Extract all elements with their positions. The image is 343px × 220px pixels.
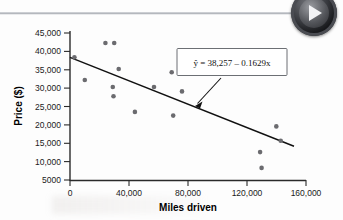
x-tick-label: 120,000	[232, 188, 263, 198]
regression-equation-label: ŷ = 38,257 – 0.1629x	[193, 58, 271, 68]
data-point	[258, 150, 263, 155]
scatter-plot-figure: 45,000 40,000 35,000 30,000 25,000 20,00…	[0, 0, 343, 220]
y-axis-title: Price ($)	[13, 86, 24, 125]
y-tick-label: 25,000	[35, 102, 61, 112]
data-point	[171, 113, 176, 118]
x-tick-label: 0	[68, 188, 73, 198]
data-point	[259, 166, 264, 171]
y-tick-label: 5000	[42, 175, 61, 185]
y-tick-label: 15,000	[35, 138, 61, 148]
data-point	[169, 70, 174, 75]
data-point	[111, 94, 116, 99]
x-axis-title: Miles driven	[159, 202, 217, 213]
data-point	[103, 41, 108, 46]
data-point	[111, 85, 116, 90]
data-point	[274, 124, 279, 129]
x-tick-label: 40,000	[116, 188, 142, 198]
chart-canvas: 45,000 40,000 35,000 30,000 25,000 20,00…	[0, 0, 343, 220]
data-point	[83, 78, 88, 83]
data-point	[278, 138, 283, 143]
y-tick-label: 30,000	[35, 83, 61, 93]
data-point	[133, 110, 138, 115]
annotation-arrow	[195, 78, 221, 109]
y-axis-tick-labels: 45,000 40,000 35,000 30,000 25,000 20,00…	[35, 28, 61, 185]
x-axis-tick-labels: 0 40,000 80,000 120,000 160,000	[68, 188, 322, 198]
y-tick-label: 10,000	[35, 157, 61, 167]
data-point	[112, 41, 117, 46]
data-point	[72, 55, 77, 60]
data-point	[116, 67, 121, 72]
y-axis-ticks	[64, 33, 70, 180]
y-tick-label: 20,000	[35, 120, 61, 130]
data-point	[152, 85, 157, 90]
x-tick-label: 80,000	[175, 188, 201, 198]
x-tick-label: 160,000	[291, 188, 322, 198]
y-tick-label: 35,000	[35, 65, 61, 75]
data-point	[180, 89, 185, 94]
y-tick-label: 40,000	[35, 46, 61, 56]
y-tick-label: 45,000	[35, 28, 61, 38]
